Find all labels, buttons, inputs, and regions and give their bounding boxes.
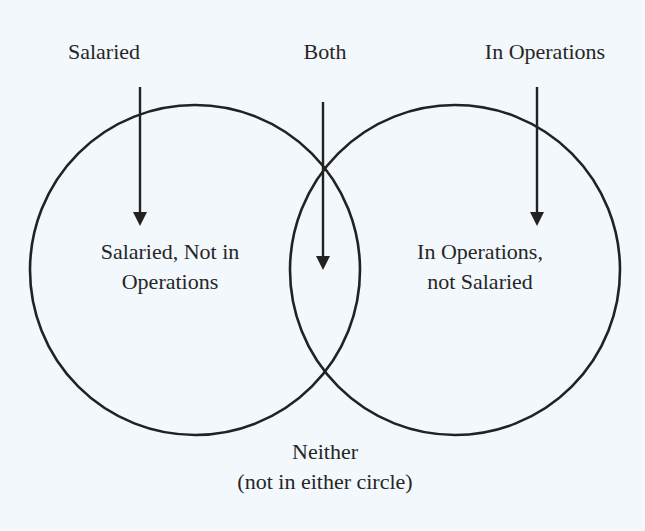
region-neither: Neither (not in either circle) [205,437,445,497]
arrow-operations [530,87,544,226]
region-salaried-only-line1: Salaried, Not in [60,237,280,267]
region-neither-line2: (not in either circle) [205,467,445,497]
label-salaried: Salaried [44,37,164,67]
region-operations-only-line1: In Operations, [375,237,585,267]
arrow-salaried [133,87,147,226]
region-neither-line1: Neither [205,437,445,467]
label-in-operations: In Operations [460,37,630,67]
region-operations-only-line2: not Salaried [375,267,585,297]
region-salaried-only: Salaried, Not in Operations [60,237,280,297]
region-salaried-only-line2: Operations [60,267,280,297]
region-operations-only: In Operations, not Salaried [375,237,585,297]
arrow-both [316,102,330,270]
label-both: Both [285,37,365,67]
